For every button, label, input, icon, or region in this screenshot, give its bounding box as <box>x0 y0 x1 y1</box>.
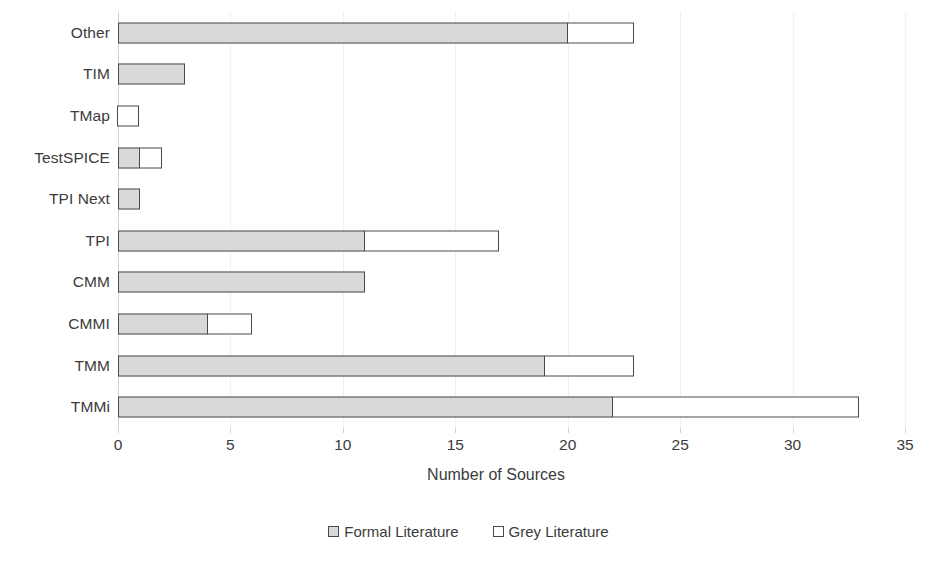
category-label: CMM <box>6 273 110 291</box>
stacked-bar[interactable] <box>118 147 162 168</box>
bar-segment[interactable] <box>612 397 859 418</box>
x-axis-tick <box>793 428 794 433</box>
bar-segment[interactable] <box>544 355 634 376</box>
category-label: TMMi <box>6 398 110 416</box>
bar-segment[interactable] <box>567 22 634 43</box>
category-label: TIM <box>6 65 110 83</box>
bar-segment[interactable] <box>118 272 365 293</box>
x-axis-title: Number of Sources <box>0 466 937 484</box>
bar-segment[interactable] <box>207 313 252 334</box>
gridline <box>905 12 906 428</box>
x-axis-tick <box>118 428 119 433</box>
category-row: CMMI <box>0 303 110 345</box>
stacked-bar[interactable] <box>118 355 634 376</box>
bar-segment[interactable] <box>139 147 161 168</box>
legend-label: Formal Literature <box>344 523 458 540</box>
bar-segment[interactable] <box>118 355 545 376</box>
bar-segment[interactable] <box>118 313 208 334</box>
bar-segment[interactable] <box>118 64 185 85</box>
bar-segment[interactable] <box>364 230 499 251</box>
x-axis-tick-label: 25 <box>672 436 689 454</box>
stacked-bar[interactable] <box>118 189 140 210</box>
bar-row <box>118 386 905 428</box>
x-axis-tick <box>680 428 681 433</box>
legend-label: Grey Literature <box>509 523 609 540</box>
bar-row <box>118 303 905 345</box>
stacked-bar[interactable] <box>118 272 365 293</box>
bar-row <box>118 345 905 387</box>
x-axis-tick-label: 20 <box>559 436 576 454</box>
bar-row <box>118 54 905 96</box>
x-axis-tick-label: 0 <box>114 436 123 454</box>
x-axis-tick <box>343 428 344 433</box>
category-label: TestSPICE <box>6 149 110 167</box>
x-axis-tick-label: 15 <box>447 436 464 454</box>
category-row: TestSPICE <box>0 137 110 179</box>
category-label: CMMI <box>6 315 110 333</box>
stacked-bar[interactable] <box>118 22 634 43</box>
bar-segment[interactable] <box>118 189 140 210</box>
x-axis-tick <box>230 428 231 433</box>
stacked-bar[interactable] <box>118 64 185 85</box>
x-axis-tick-label: 35 <box>896 436 913 454</box>
bar-row <box>118 220 905 262</box>
bar-segment[interactable] <box>118 230 365 251</box>
bar-row <box>118 95 905 137</box>
plot-area <box>118 12 905 428</box>
bar-row <box>118 137 905 179</box>
bar-row <box>118 178 905 220</box>
bar-segment[interactable] <box>118 147 140 168</box>
bar-row <box>118 12 905 54</box>
stacked-bar[interactable] <box>118 397 859 418</box>
category-label: Other <box>6 24 110 42</box>
x-axis-tick-label: 30 <box>784 436 801 454</box>
stacked-bar[interactable] <box>118 105 139 126</box>
bar-chart: OtherTIMTMapTestSPICETPI NextTPICMMCMMIT… <box>0 0 937 582</box>
category-label-column: OtherTIMTMapTestSPICETPI NextTPICMMCMMIT… <box>0 12 110 428</box>
category-row: TPI <box>0 220 110 262</box>
category-label: TPI <box>6 232 110 250</box>
category-row: TPI Next <box>0 178 110 220</box>
bar-segment[interactable] <box>118 22 568 43</box>
category-row: TIM <box>0 54 110 96</box>
x-axis-tick <box>455 428 456 433</box>
bar-segment[interactable] <box>118 397 613 418</box>
category-label: TMap <box>6 107 110 125</box>
x-axis-tick-label: 10 <box>334 436 351 454</box>
bar-row <box>118 262 905 304</box>
category-row: TMMi <box>0 386 110 428</box>
legend-item[interactable]: Formal Literature <box>328 523 458 540</box>
legend-item[interactable]: Grey Literature <box>493 523 609 540</box>
stacked-bar[interactable] <box>118 313 252 334</box>
category-row: TMM <box>0 345 110 387</box>
category-row: TMap <box>0 95 110 137</box>
x-axis-tick <box>905 428 906 433</box>
legend-swatch-icon <box>493 526 504 537</box>
x-axis-title-text: Number of Sources <box>427 466 565 484</box>
chart-legend: Formal LiteratureGrey Literature <box>0 523 937 540</box>
category-row: CMM <box>0 262 110 304</box>
x-axis-tick-label: 5 <box>226 436 235 454</box>
category-row: Other <box>0 12 110 54</box>
bar-segment[interactable] <box>117 105 139 126</box>
legend-swatch-icon <box>328 526 339 537</box>
category-label: TPI Next <box>6 190 110 208</box>
category-label: TMM <box>6 357 110 375</box>
x-axis-tick <box>568 428 569 433</box>
stacked-bar[interactable] <box>118 230 499 251</box>
